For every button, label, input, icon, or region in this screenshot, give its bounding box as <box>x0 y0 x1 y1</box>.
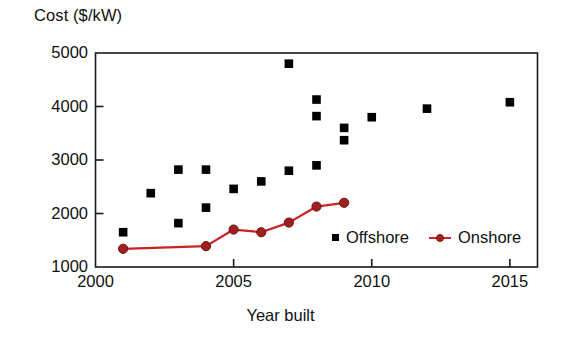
offshore-data-point <box>340 124 349 133</box>
offshore-data-point <box>202 165 211 174</box>
offshore-data-point <box>423 104 432 113</box>
onshore-data-point <box>257 228 266 237</box>
onshore-data-point <box>201 242 210 251</box>
legend-label-onshore: Onshore <box>458 228 521 247</box>
onshore-data-point <box>229 225 238 234</box>
offshore-data-point <box>285 166 294 175</box>
offshore-data-point <box>312 112 321 121</box>
onshore-data-point <box>312 202 321 211</box>
plot-area <box>0 0 561 341</box>
offshore-data-point <box>340 136 349 145</box>
offshore-data-point <box>312 161 321 170</box>
offshore-data-point <box>312 95 321 104</box>
chart-figure: Cost ($/kW) Year built 10002000300040005… <box>0 0 561 341</box>
offshore-data-point <box>285 59 294 68</box>
offshore-data-point <box>506 98 515 107</box>
onshore-data-point <box>284 218 293 227</box>
legend-label-offshore: Offshore <box>346 228 409 247</box>
offshore-data-point <box>202 203 211 212</box>
offshore-data-point <box>229 185 238 194</box>
offshore-data-point <box>367 113 376 122</box>
offshore-data-point <box>257 177 266 186</box>
legend-item-offshore: Offshore <box>332 228 409 247</box>
offshore-data-point <box>119 228 128 237</box>
legend-item-onshore: Onshore <box>429 228 521 247</box>
offshore-square-icon <box>332 234 339 241</box>
offshore-data-point <box>174 165 183 174</box>
onshore-data-point <box>119 244 128 253</box>
onshore-line-marker-icon <box>429 233 451 242</box>
offshore-data-point <box>146 189 155 198</box>
offshore-data-point <box>174 219 183 228</box>
onshore-data-point <box>340 198 349 207</box>
